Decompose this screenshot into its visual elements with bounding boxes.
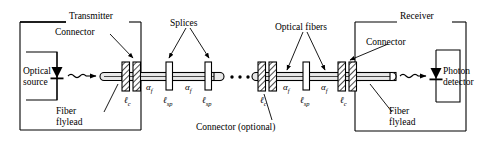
leader-fiber-flylead-tx [104, 84, 118, 112]
fiber-flylead-rx-label-line1: Fiber [389, 106, 409, 117]
splice-3 [303, 62, 310, 90]
loss-splice-3-label: ℓsp [300, 95, 310, 107]
splice-1 [166, 62, 173, 90]
tx-fiber-flylead [100, 73, 124, 81]
fiber-flylead-tx-label-line1: Fiber [56, 106, 76, 117]
tx-light-arrow-icon [68, 74, 96, 77]
connector-optional-label: Connector (optional) [196, 122, 275, 133]
attenuation-fiber-2-label: αf [185, 82, 192, 94]
fiber-flylead-tx-label-line2: flylead [56, 117, 82, 128]
ellipsis-dots-icon [230, 75, 249, 78]
rx-light-arrow-icon [400, 74, 426, 77]
attenuation-fiber-3-label: αf [283, 82, 290, 94]
rx-fiber-flylead [352, 73, 396, 81]
photon-detector-diode-icon [430, 68, 443, 79]
attenuation-fiber-1-label: αf [146, 82, 153, 94]
attenuation-fiber-4-label: αf [321, 82, 328, 94]
optical-source-label-line2: source [23, 77, 48, 88]
fiber-optic-link-diagram: Transmitter Receiver Optical source Phot… [0, 0, 480, 151]
loss-splice-1-label: ℓsp [163, 95, 173, 107]
splices-label: Splices [170, 18, 197, 29]
optical-fibers-label: Optical fibers [275, 22, 327, 33]
photon-detector-label-line2: detector [443, 77, 474, 88]
transmitter-label: Transmitter [69, 11, 113, 22]
loss-connector-1-label: ℓc [124, 95, 131, 107]
leader-splices [169, 28, 209, 58]
loss-splice-2-label: ℓsp [202, 95, 212, 107]
optical-source-label-line1: Optical [23, 66, 51, 77]
splice-2 [205, 62, 212, 90]
leader-connector-tx [110, 34, 133, 58]
receiver-label: Receiver [400, 11, 434, 22]
loss-connector-3-label: ℓc [340, 95, 347, 107]
loss-connector-2-label: ℓc [260, 95, 267, 107]
fiber-flylead-rx-label-line2: flylead [389, 117, 415, 128]
connector-tx-label: Connector [55, 27, 95, 38]
photon-detector-label-line1: Photon [443, 66, 470, 77]
connector-rx-label: Connector [366, 37, 406, 48]
optical-source-diode-icon [51, 67, 64, 78]
